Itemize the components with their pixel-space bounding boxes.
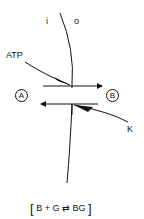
membrane-curve [60,13,73,183]
k-arrowhead [74,105,93,112]
label-k: K [127,124,133,134]
eq-right: BG [72,203,85,213]
label-atp: ATP [6,50,23,60]
label-inside: i [46,16,48,26]
eq-close-bracket: ] [88,201,92,216]
binding-equation: [ B + G ⇄ BG ] [30,203,92,214]
diagram-lines [0,0,144,219]
eq-arrow: ⇄ [62,203,70,213]
label-outside: o [74,16,79,26]
eq-left: B + G [36,203,59,213]
membrane-transport-diagram: i o ATP K A B [ B + G ⇄ BG ] [0,0,144,219]
atp-arrowhead [54,77,70,85]
node-a: A [15,89,28,102]
atp-curve [25,62,70,85]
node-b: B [106,89,119,102]
eq-open-bracket: [ [30,201,34,216]
